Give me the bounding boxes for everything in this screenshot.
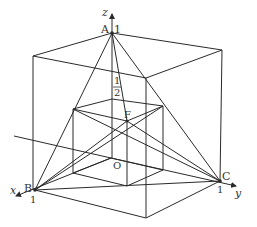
point-b: [33, 188, 37, 192]
point-c-label: C: [222, 170, 230, 183]
y-axis-label: y: [234, 187, 242, 200]
point-a-label: A: [100, 23, 110, 36]
cube-diagram: z A 1 1 2 F O x B 1 C 1 y: [0, 0, 257, 227]
x-tick-1: 1: [30, 194, 36, 205]
point-f-label: F: [124, 109, 131, 120]
z-tick-1: 1: [114, 23, 121, 36]
inner-cube: [73, 99, 163, 186]
extension-line: [14, 136, 111, 158]
y-axis: [111, 158, 236, 186]
z-axis-label: z: [101, 6, 108, 19]
point-o-label: O: [113, 160, 121, 171]
z-half-den: 2: [114, 87, 120, 98]
x-axis-label: x: [10, 184, 17, 197]
z-half-num: 1: [114, 75, 120, 86]
axes: [14, 14, 236, 196]
y-tick-1: 1: [217, 184, 223, 195]
